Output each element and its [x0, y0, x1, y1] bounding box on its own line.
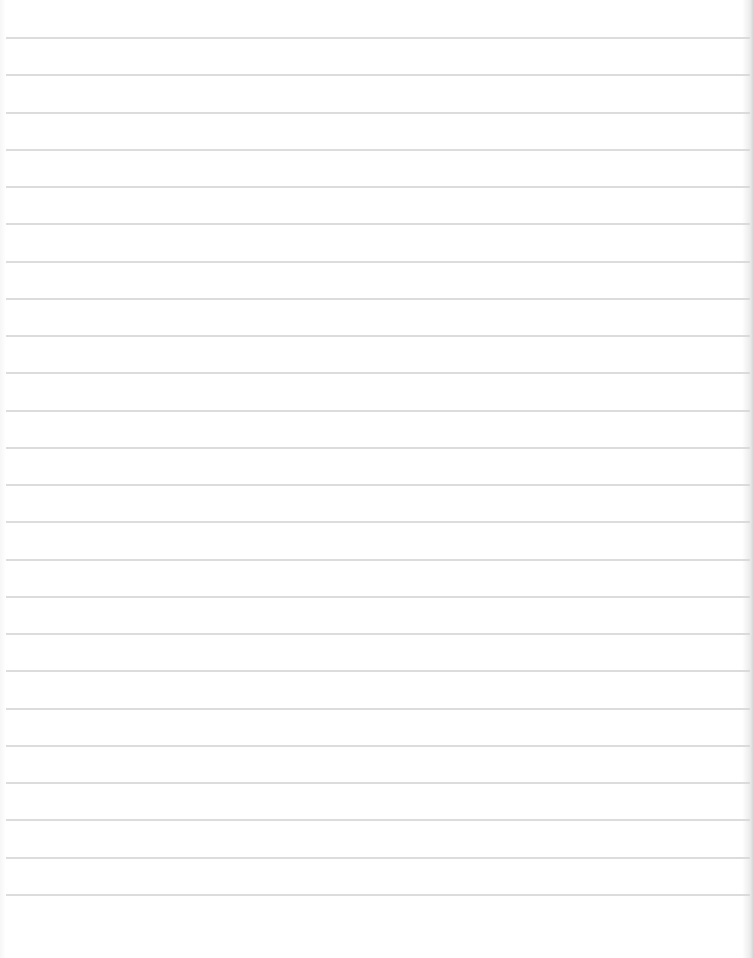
ruled-line [6, 410, 750, 412]
ruled-line [6, 521, 750, 523]
ruled-line [6, 596, 750, 598]
ruled-line [6, 186, 750, 188]
ruled-line [6, 894, 750, 896]
ruled-line [6, 298, 750, 300]
ruled-line [6, 559, 750, 561]
lined-paper-sheet [0, 0, 753, 958]
ruled-line [6, 112, 750, 114]
ruled-line [6, 819, 750, 821]
ruled-line [6, 447, 750, 449]
ruled-line [6, 37, 750, 39]
ruled-line [6, 745, 750, 747]
ruled-line [6, 484, 750, 486]
ruled-line [6, 857, 750, 859]
ruled-line [6, 372, 750, 374]
ruled-line [6, 149, 750, 151]
ruled-line [6, 633, 750, 635]
ruled-line [6, 261, 750, 263]
ruled-line [6, 335, 750, 337]
ruled-line [6, 223, 750, 225]
ruled-line [6, 782, 750, 784]
ruled-line [6, 670, 750, 672]
ruled-line [6, 708, 750, 710]
ruled-line [6, 74, 750, 76]
